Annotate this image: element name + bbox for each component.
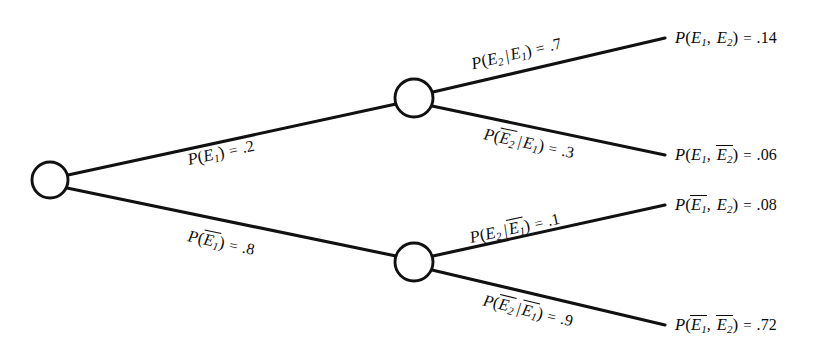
outcome-e1-bar-e2-bar: P(E1, E2) = .72 — [675, 316, 777, 335]
event-symbol: E1 — [691, 29, 707, 46]
upper-event-node — [395, 79, 433, 117]
event-symbol-negated: E1 — [691, 317, 707, 335]
event-symbol: E2 — [717, 196, 733, 213]
outcome-e1-bar-e2: P(E1, E2) = .08 — [675, 196, 777, 215]
event-symbol: E1 — [691, 146, 707, 163]
outcome-e1-e2-bar: P(E1, E2) = .06 — [675, 146, 777, 165]
probability-value: .14 — [757, 29, 777, 46]
probability-value: .08 — [757, 196, 777, 213]
root-node — [32, 162, 68, 198]
lower-event-node — [395, 243, 433, 281]
branch-lines — [67, 38, 665, 325]
event-symbol: E2 — [717, 29, 733, 46]
probability-tree-diagram: P(E1) = .2P(E1) = .8P(E2|E1) = .7P(E2|E1… — [0, 0, 838, 364]
event-symbol-negated: E2 — [717, 317, 733, 335]
branch-b1 — [68, 104, 396, 175]
event-symbol-negated: E2 — [717, 147, 733, 165]
probability-value: .72 — [757, 316, 777, 333]
tree-graphics — [0, 0, 838, 364]
event-symbol-negated: E1 — [691, 197, 707, 215]
probability-value: .06 — [757, 146, 777, 163]
outcome-e1-e2: P(E1, E2) = .14 — [675, 29, 777, 48]
